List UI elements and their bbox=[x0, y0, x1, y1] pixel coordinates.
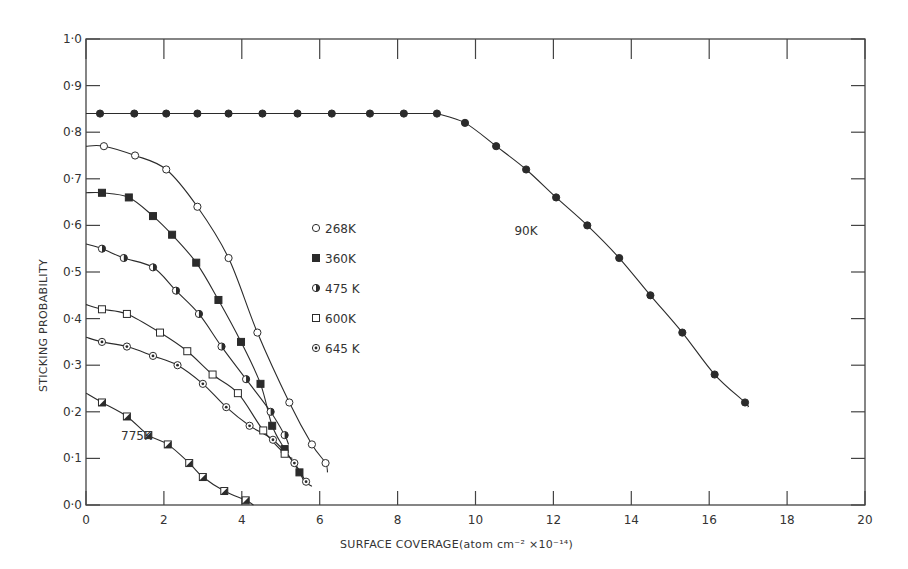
filled-square-marker bbox=[296, 469, 303, 476]
filled-square-marker bbox=[193, 259, 200, 266]
legend: 268K360K475 K600K645 K bbox=[312, 222, 360, 356]
y-tick-label: 1·0 bbox=[63, 32, 82, 46]
series-annotation: 775K bbox=[121, 429, 153, 443]
y-tick-label: 0·0 bbox=[63, 498, 82, 512]
x-tick-labels: 02468101214161820 bbox=[82, 513, 872, 527]
y-tick-label: 0·2 bbox=[63, 405, 82, 419]
y-tick-label: 0·9 bbox=[63, 79, 82, 93]
filled-circle-marker bbox=[294, 110, 301, 117]
dotted-circle-dot bbox=[225, 406, 228, 409]
filled-circle-marker bbox=[225, 110, 232, 117]
x-tick-label: 8 bbox=[394, 513, 402, 527]
y-tick-label: 0·8 bbox=[63, 125, 82, 139]
legend-label: 600K bbox=[325, 312, 357, 326]
y-axis-title: STICKING PROBABILITY bbox=[37, 259, 50, 392]
filled-square-marker bbox=[125, 194, 132, 201]
filled-circle-marker bbox=[493, 143, 500, 150]
x-tick-label: 20 bbox=[857, 513, 872, 527]
filled-circle-marker bbox=[131, 110, 138, 117]
filled-circle-marker bbox=[259, 110, 266, 117]
open-square-marker bbox=[157, 329, 164, 336]
filled-square-marker bbox=[169, 231, 176, 238]
dotted-circle-dot bbox=[176, 364, 179, 367]
filled-circle-marker bbox=[400, 110, 407, 117]
filled-circle-marker bbox=[461, 119, 468, 126]
open-square-marker bbox=[281, 450, 288, 457]
filled-square-marker bbox=[215, 296, 222, 303]
x-axis-title: SURFACE COVERAGE(atom cm⁻² ×10⁻¹⁴) bbox=[340, 538, 573, 551]
x-tick-label: 0 bbox=[82, 513, 90, 527]
filled-circle-marker bbox=[163, 110, 170, 117]
filled-circle-marker bbox=[616, 254, 623, 261]
open-circle-marker bbox=[322, 459, 329, 466]
filled-circle-marker bbox=[647, 292, 654, 299]
x-tick-label: 14 bbox=[624, 513, 639, 527]
x-tick-label: 2 bbox=[160, 513, 168, 527]
filled-circle-marker bbox=[553, 194, 560, 201]
dotted-circle-dot bbox=[201, 382, 204, 385]
sticking-probability-chart: 02468101214161820 0·00·10·20·30·40·50·60… bbox=[0, 0, 908, 569]
dotted-circle-dot bbox=[101, 341, 104, 344]
y-tick-labels: 0·00·10·20·30·40·50·60·70·80·91·0 bbox=[63, 32, 82, 512]
open-circle-marker bbox=[131, 152, 138, 159]
filled-square-marker bbox=[257, 380, 264, 387]
filled-circle-marker bbox=[679, 329, 686, 336]
markers-645K bbox=[98, 338, 309, 485]
y-tick-label: 0·7 bbox=[63, 172, 82, 186]
open-circle-marker bbox=[100, 143, 107, 150]
filled-circle-marker bbox=[328, 110, 335, 117]
filled-circle-marker bbox=[366, 110, 373, 117]
markers-268K bbox=[100, 143, 329, 467]
open-circle-marker bbox=[308, 441, 315, 448]
markers-775K bbox=[98, 399, 249, 504]
series-markers bbox=[96, 110, 748, 504]
legend-label: 645 K bbox=[325, 342, 361, 356]
open-circle-marker bbox=[312, 224, 319, 231]
filled-square-marker bbox=[149, 213, 156, 220]
y-tick-label: 0·3 bbox=[63, 358, 82, 372]
series-annotation: 90K bbox=[514, 224, 538, 238]
markers-475K bbox=[98, 245, 288, 439]
open-square-marker bbox=[260, 427, 267, 434]
curve-90K bbox=[86, 114, 748, 408]
filled-square-marker bbox=[313, 255, 320, 262]
filled-square-marker bbox=[269, 422, 276, 429]
open-circle-marker bbox=[286, 399, 293, 406]
open-square-marker bbox=[313, 315, 320, 322]
filled-square-marker bbox=[98, 189, 105, 196]
open-square-marker bbox=[184, 348, 191, 355]
x-tick-label: 10 bbox=[468, 513, 483, 527]
dotted-circle-dot bbox=[293, 462, 296, 465]
dotted-circle-dot bbox=[125, 345, 128, 348]
x-tick-label: 16 bbox=[702, 513, 717, 527]
dotted-circle-dot bbox=[248, 424, 251, 427]
open-circle-marker bbox=[163, 166, 170, 173]
open-square-marker bbox=[234, 390, 241, 397]
open-circle-marker bbox=[254, 329, 261, 336]
x-tick-label: 12 bbox=[546, 513, 561, 527]
y-tick-label: 0·6 bbox=[63, 218, 82, 232]
series-curves bbox=[86, 114, 748, 505]
curve-268K bbox=[86, 145, 327, 472]
open-square-marker bbox=[209, 371, 216, 378]
y-tick-label: 0·1 bbox=[63, 451, 82, 465]
legend-label: 475 K bbox=[325, 282, 361, 296]
dotted-circle-dot bbox=[152, 354, 155, 357]
markers-90K bbox=[96, 110, 748, 406]
dotted-circle-dot bbox=[305, 480, 308, 483]
x-tick-label: 4 bbox=[238, 513, 246, 527]
y-tick-label: 0·5 bbox=[63, 265, 82, 279]
filled-circle-marker bbox=[433, 110, 440, 117]
x-tick-label: 6 bbox=[316, 513, 324, 527]
open-circle-marker bbox=[225, 254, 232, 261]
y-tick-label: 0·4 bbox=[63, 312, 82, 326]
filled-circle-marker bbox=[741, 399, 748, 406]
filled-circle-marker bbox=[584, 222, 591, 229]
legend-label: 360K bbox=[325, 252, 357, 266]
filled-circle-marker bbox=[96, 110, 103, 117]
dotted-circle-dot bbox=[315, 347, 318, 350]
dotted-circle-dot bbox=[272, 438, 275, 441]
legend-label: 268K bbox=[325, 222, 357, 236]
open-circle-marker bbox=[194, 203, 201, 210]
filled-circle-marker bbox=[711, 371, 718, 378]
